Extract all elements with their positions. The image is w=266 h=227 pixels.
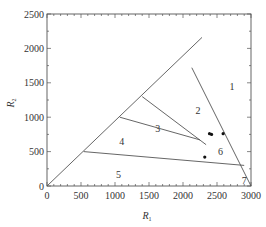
region-label-2: 2 (195, 105, 200, 116)
x-tick-label: 0 (45, 190, 50, 201)
y-tick-label: 0 (39, 181, 44, 192)
x-tick-label: 3000 (241, 190, 261, 201)
region-label-7: 7 (242, 175, 247, 186)
axis-tick-labels: 0500100015002000250030000500100015002000… (24, 9, 261, 202)
y-axis-title: R2 (5, 98, 17, 108)
y-tick-label: 2500 (24, 9, 44, 20)
x-tick-label: 2500 (207, 190, 227, 201)
chart: 0500100015002000250030000500100015002000… (0, 0, 266, 227)
boundary-line-diagonal (47, 37, 202, 186)
boundary-line-boundary-1-2 (192, 68, 251, 186)
svg-text:R1: R1 (141, 210, 151, 222)
x-tick-label: 1500 (139, 190, 159, 201)
region-label-1: 1 (229, 81, 234, 92)
y-tick-label: 1500 (24, 77, 44, 88)
region-labels: 1234567 (116, 81, 247, 186)
data-point (210, 133, 213, 136)
y-tick-label: 2000 (24, 43, 44, 54)
data-point (203, 156, 206, 159)
x-tick-label: 2000 (173, 190, 193, 201)
plot-border (47, 14, 251, 186)
x-tick-label: 1000 (105, 190, 125, 201)
svg-text:R2: R2 (5, 98, 17, 108)
axis-ticks (47, 14, 251, 186)
boundary-line-boundary-2-3 (142, 97, 206, 145)
x-tick-label: 500 (74, 190, 89, 201)
region-label-3: 3 (155, 123, 160, 134)
y-tick-label: 1000 (24, 112, 44, 123)
y-tick-label: 500 (29, 146, 44, 157)
plot-frame (47, 14, 251, 186)
region-label-4: 4 (119, 136, 124, 147)
region-label-5: 5 (116, 169, 121, 180)
x-axis-title: R1 (141, 210, 151, 222)
data-point (222, 132, 225, 135)
boundary-lines (47, 37, 251, 186)
region-label-6: 6 (218, 146, 223, 157)
